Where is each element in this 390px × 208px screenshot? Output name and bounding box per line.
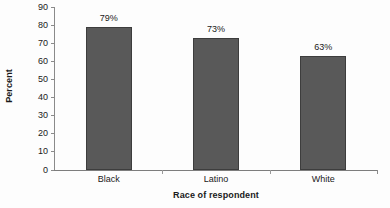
bar[interactable] xyxy=(86,27,132,170)
x-axis-tick-label: Black xyxy=(98,175,120,184)
y-axis-tick-label: 80 xyxy=(38,20,51,29)
bar-group: 63% xyxy=(270,7,377,170)
y-axis-tick-label: 40 xyxy=(38,93,51,102)
y-axis-tick-label: 20 xyxy=(38,129,51,138)
bar-chart: Percent 0102030405060708090 79%73%63% Bl… xyxy=(0,0,390,208)
bar-value-label: 79% xyxy=(100,14,118,23)
y-axis-tick-label: 60 xyxy=(38,56,51,65)
x-axis-tick-labels: BlackLatinoWhite xyxy=(55,175,377,189)
x-axis-tick-label: Latino xyxy=(204,175,229,184)
y-axis: 0102030405060708090 xyxy=(20,4,54,171)
y-axis-tick-label: 90 xyxy=(38,2,51,11)
bar[interactable] xyxy=(193,38,239,170)
y-axis-title-label: Percent xyxy=(4,69,14,103)
category-divider-tick xyxy=(270,170,271,174)
bar-group: 73% xyxy=(162,7,269,170)
bar[interactable] xyxy=(300,56,346,170)
y-axis-tick-label: 30 xyxy=(38,111,51,120)
bar-group: 79% xyxy=(55,7,162,170)
y-axis-title: Percent xyxy=(0,0,18,172)
bar-value-label: 63% xyxy=(314,43,332,52)
y-axis-tick-label: 0 xyxy=(43,165,51,174)
x-axis-end-tick xyxy=(377,170,378,174)
bar-value-label: 73% xyxy=(207,25,225,34)
category-divider-tick xyxy=(162,170,163,174)
x-axis-title: Race of respondent xyxy=(55,190,377,200)
plot-area: 79%73%63% xyxy=(55,7,377,170)
y-axis-tick-label: 50 xyxy=(38,74,51,83)
x-axis-tick-label: White xyxy=(312,175,335,184)
y-axis-tick-label: 70 xyxy=(38,38,51,47)
x-axis-line xyxy=(54,170,378,171)
y-axis-tick-label: 10 xyxy=(38,147,51,156)
